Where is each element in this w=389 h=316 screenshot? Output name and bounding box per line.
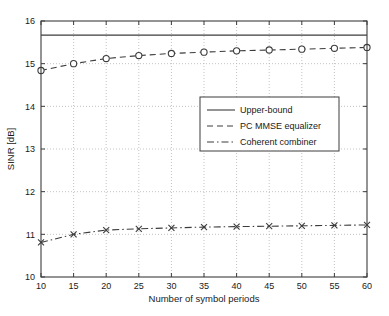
x-tick-label: 35: [199, 281, 209, 291]
data-point-marker: [331, 45, 337, 51]
y-tick-label: 14: [25, 102, 35, 112]
x-tick-label: 50: [297, 281, 307, 291]
chart-canvas: 1015202530354045505560 10111213141516 Nu…: [0, 0, 389, 316]
x-tick-label: 60: [362, 281, 372, 291]
figure-container: 1015202530354045505560 10111213141516 Nu…: [0, 0, 389, 316]
x-tick-label: 45: [264, 281, 274, 291]
x-axis-title: Number of symbol periods: [149, 293, 260, 304]
data-point-marker: [168, 50, 174, 56]
y-axis-title: SINR [dB]: [5, 128, 16, 170]
x-tick-label: 55: [329, 281, 339, 291]
figure-background: [0, 0, 389, 316]
data-point-marker: [136, 52, 142, 58]
x-tick-label: 15: [69, 281, 79, 291]
x-tick-label: 40: [232, 281, 242, 291]
y-tick-label: 11: [26, 230, 35, 240]
data-point-marker: [234, 48, 240, 54]
data-point-marker: [299, 46, 305, 52]
y-tick-label: 15: [25, 59, 35, 69]
x-tick-label: 20: [101, 281, 111, 291]
data-point-marker: [201, 49, 207, 55]
chart-legend: Upper-boundPC MMSE equalizerCoherent com…: [200, 97, 339, 151]
x-tick-label: 25: [134, 281, 144, 291]
y-tick-label: 12: [25, 187, 35, 197]
data-point-marker: [71, 61, 77, 67]
data-point-marker: [103, 55, 109, 61]
y-tick-label: 16: [25, 16, 35, 26]
data-point-marker: [266, 47, 272, 53]
x-tick-label: 10: [36, 281, 46, 291]
y-tick-label: 13: [25, 144, 35, 154]
legend-label-1: PC MMSE equalizer: [240, 121, 321, 131]
x-tick-label: 30: [166, 281, 176, 291]
legend-label-2: Coherent combiner: [240, 137, 317, 147]
legend-label-0: Upper-bound: [240, 105, 293, 115]
y-tick-label: 10: [25, 272, 35, 282]
